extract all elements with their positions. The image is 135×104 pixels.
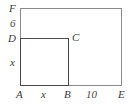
outer-rect-right-edge <box>121 8 122 86</box>
measurement-label-bottom-right-10: 10 <box>86 89 97 100</box>
geometry-figure: F D A B C E 6 x x 10 <box>0 0 135 104</box>
vertex-label-D: D <box>8 33 16 44</box>
vertex-label-B: B <box>64 89 71 100</box>
measurement-label-left-upper-6: 6 <box>10 18 16 29</box>
vertex-label-F: F <box>9 3 16 14</box>
inner-square-top-edge-DC <box>20 38 69 39</box>
vertex-label-E: E <box>118 89 125 100</box>
outer-rect-left-edge-upper <box>20 8 21 38</box>
vertex-label-A: A <box>16 89 23 100</box>
measurement-label-left-lower-x: x <box>10 57 15 68</box>
inner-square-left-edge-AD <box>20 38 21 86</box>
outer-rect-top-edge <box>20 8 122 9</box>
inner-square-right-edge-CB <box>68 38 69 86</box>
vertex-label-C: C <box>72 32 79 43</box>
inner-square-bottom-edge-AB <box>20 85 69 86</box>
measurement-label-bottom-left-x: x <box>41 89 46 100</box>
